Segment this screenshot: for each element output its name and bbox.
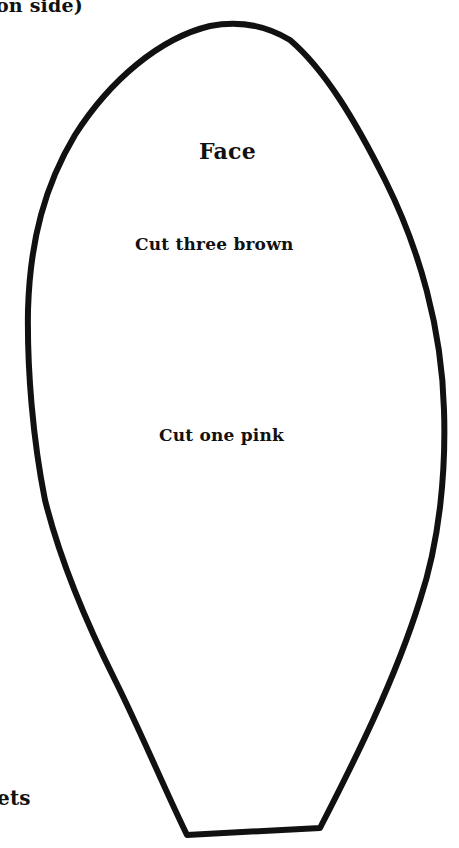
cropped-footer-text: ets: [0, 786, 31, 810]
cut-instruction-pink: Cut one pink: [159, 425, 284, 445]
cut-instruction-brown: Cut three brown: [135, 234, 294, 254]
face-pattern-outline: [0, 0, 459, 848]
pattern-piece-title: Face: [199, 138, 256, 164]
